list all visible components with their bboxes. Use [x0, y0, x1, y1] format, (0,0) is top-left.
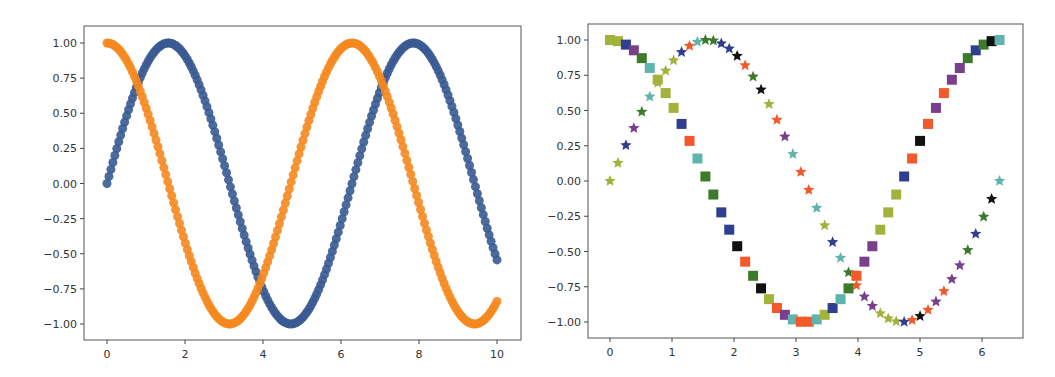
right-series-sin-stars	[604, 34, 1005, 327]
y-tick-label: 1.00	[53, 37, 78, 50]
data-point-star	[771, 114, 782, 125]
data-point-star	[620, 139, 631, 150]
y-tick-label: 0.00	[557, 175, 582, 188]
data-point-square	[716, 207, 726, 217]
data-point-square	[828, 303, 838, 313]
x-tick-label: 0	[104, 348, 111, 361]
data-point-star	[899, 316, 910, 327]
y-tick-label: 0.50	[557, 105, 582, 118]
data-point-star	[819, 219, 830, 230]
data-point-square	[756, 283, 766, 293]
data-point-star	[883, 313, 894, 324]
data-point-square	[740, 257, 750, 267]
data-point-star	[668, 54, 679, 65]
data-point-star	[684, 40, 695, 51]
data-point-star	[724, 43, 735, 54]
data-point-star	[922, 304, 933, 315]
data-point-star	[835, 252, 846, 263]
data-point-star	[604, 175, 615, 186]
data-point-square	[669, 103, 679, 113]
data-point-star	[612, 157, 623, 168]
y-tick-label: −0.50	[43, 248, 77, 261]
y-tick-label: −0.75	[547, 281, 581, 294]
y-tick-label: −1.00	[547, 316, 581, 329]
data-point	[493, 255, 502, 264]
data-point-star	[811, 202, 822, 213]
x-tick-label: 4	[855, 346, 862, 359]
left-y-axis-ticks: 1.000.750.500.250.00−0.25−0.50−0.75−1.00	[43, 37, 84, 331]
data-point-star	[779, 131, 790, 142]
data-point-square	[645, 63, 655, 73]
data-point-star	[660, 65, 671, 76]
left-plot-frame	[84, 26, 521, 340]
data-point-star	[978, 211, 989, 222]
data-point-square	[685, 136, 695, 146]
x-tick-label: 6	[979, 346, 986, 359]
data-point-square	[907, 153, 917, 163]
data-point-star	[747, 71, 758, 82]
data-point-square	[677, 119, 687, 129]
x-tick-label: 8	[416, 348, 423, 361]
data-point-star	[986, 193, 997, 204]
right-series-cos-squares	[605, 35, 1005, 327]
data-point-star	[644, 91, 655, 102]
y-tick-label: 0.00	[53, 178, 78, 191]
x-tick-label: 2	[182, 348, 189, 361]
data-point-square	[931, 103, 941, 113]
data-point-star	[763, 98, 774, 109]
data-point-star	[739, 59, 750, 70]
data-point-square	[844, 283, 854, 293]
data-point-square	[724, 225, 734, 235]
data-point-star	[827, 236, 838, 247]
data-point-square	[637, 53, 647, 63]
data-point-star	[930, 296, 941, 307]
data-point-square	[836, 294, 846, 304]
data-point-square	[867, 241, 877, 251]
left-x-axis-ticks: 0246810	[104, 340, 505, 361]
data-point-square	[692, 153, 702, 163]
data-point-star	[867, 300, 878, 311]
x-tick-label: 6	[338, 348, 345, 361]
data-point-star	[803, 184, 814, 195]
y-tick-label: −0.50	[547, 246, 581, 259]
data-point-square	[875, 225, 885, 235]
left-chart-sin-cos-lines: 1.000.750.500.250.00−0.25−0.50−0.75−1.00…	[43, 26, 521, 361]
x-tick-label: 1	[669, 346, 676, 359]
data-point-square	[899, 171, 909, 181]
y-tick-label: −1.00	[43, 318, 77, 331]
data-point-star	[708, 35, 719, 46]
data-point-square	[995, 35, 1005, 45]
right-x-axis-ticks: 0123456	[607, 338, 986, 359]
data-point-square	[955, 63, 965, 73]
x-tick-label: 4	[260, 348, 267, 361]
right-y-axis-ticks: 1.000.750.500.250.00−0.25−0.50−0.75−1.00	[547, 34, 588, 329]
data-point-star	[732, 50, 743, 61]
data-point-star	[906, 314, 917, 325]
data-point-square	[947, 75, 957, 85]
data-point-square	[764, 294, 774, 304]
data-point-star	[676, 46, 687, 57]
x-tick-label: 3	[793, 346, 800, 359]
data-point-star	[962, 244, 973, 255]
data-point-star	[938, 285, 949, 296]
right-chart-colored-markers: 1.000.750.500.250.00−0.25−0.50−0.75−1.00…	[547, 24, 1023, 359]
data-point	[493, 297, 502, 306]
data-point-square	[851, 271, 861, 281]
data-point-star	[954, 259, 965, 270]
data-point-square	[915, 136, 925, 146]
y-tick-label: 1.00	[557, 34, 582, 47]
data-point-square	[923, 119, 933, 129]
data-point-square	[708, 190, 718, 200]
y-tick-label: 0.75	[53, 72, 78, 85]
figure: 1.000.750.500.250.00−0.25−0.50−0.75−1.00…	[0, 0, 1055, 377]
data-point-square	[891, 190, 901, 200]
data-point-square	[653, 75, 663, 85]
y-tick-label: −0.25	[43, 213, 77, 226]
y-tick-label: −0.75	[43, 283, 77, 296]
data-point-star	[636, 106, 647, 117]
y-tick-label: 0.25	[53, 142, 78, 155]
data-point-square	[883, 207, 893, 217]
data-point-star	[795, 166, 806, 177]
x-tick-label: 10	[490, 348, 504, 361]
data-point-star	[994, 175, 1005, 186]
